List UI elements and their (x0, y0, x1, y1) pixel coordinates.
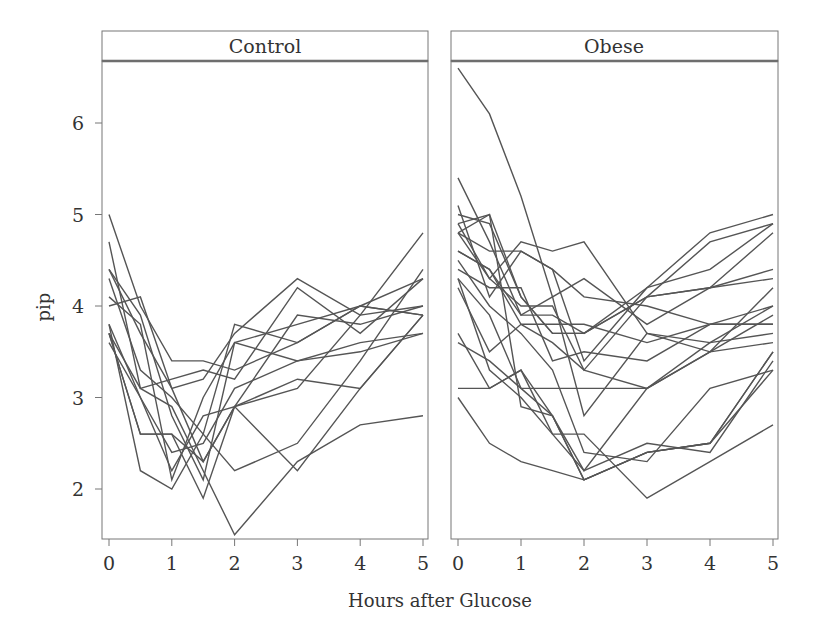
series-lines-obese (458, 68, 773, 498)
x-tick-label: 2 (578, 552, 590, 574)
series-line-obese-18 (458, 343, 773, 480)
y-axis: 23456 (72, 112, 102, 500)
series-line-obese-5 (458, 370, 773, 498)
series-line-obese-7 (458, 333, 773, 479)
panel-obese: Obese 012345 (451, 31, 779, 574)
x-tick-label: 2 (229, 552, 241, 574)
x-axis-control: 012345 (103, 539, 429, 574)
y-tick-label: 2 (72, 478, 84, 500)
x-tick-label: 3 (291, 552, 303, 574)
series-line-control-5 (109, 297, 423, 480)
y-tick-label: 6 (72, 112, 84, 134)
y-tick-label: 4 (72, 295, 84, 317)
y-axis-title: pip (33, 293, 54, 322)
series-line-obese-16 (458, 288, 773, 389)
y-tick-label: 3 (72, 387, 84, 409)
series-line-obese-9 (458, 352, 773, 480)
x-tick-label: 5 (417, 552, 429, 574)
x-tick-label: 0 (452, 552, 464, 574)
x-tick-label: 3 (641, 552, 653, 574)
strip-label-obese: Obese (584, 35, 644, 57)
plot-area-control (102, 61, 428, 539)
x-tick-label: 1 (515, 552, 527, 574)
chart: Control 012345 Obese 012345 23456 Hours … (0, 0, 816, 638)
x-tick-label: 4 (704, 552, 716, 574)
x-tick-label: 1 (166, 552, 178, 574)
panel-control: Control 012345 (102, 31, 429, 574)
series-line-control-4 (109, 306, 423, 471)
series-line-obese-19 (458, 260, 773, 461)
series-lines-control (109, 215, 423, 535)
x-tick-label: 0 (103, 552, 115, 574)
series-line-obese-20 (458, 251, 773, 343)
x-axis-title: Hours after Glucose (348, 590, 532, 611)
x-axis-obese: 012345 (452, 539, 779, 574)
x-tick-label: 5 (767, 552, 779, 574)
series-line-control-3 (109, 297, 423, 462)
y-tick-label: 5 (72, 204, 84, 226)
strip-label-control: Control (229, 35, 301, 57)
x-tick-label: 4 (354, 552, 366, 574)
